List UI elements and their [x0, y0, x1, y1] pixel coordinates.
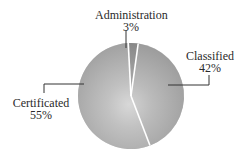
- label-administration: Administration 3%: [95, 9, 167, 33]
- label-certificated-value: 55%: [10, 109, 72, 121]
- label-classified: Classified 42%: [185, 50, 235, 74]
- label-classified-value: 42%: [185, 62, 235, 74]
- label-administration-value: 3%: [95, 21, 167, 33]
- pie-chart: Administration 3% Classified 42% Certifi…: [0, 0, 246, 155]
- label-certificated: Certificated 55%: [10, 97, 72, 121]
- leader-line-certificated: [44, 84, 84, 93]
